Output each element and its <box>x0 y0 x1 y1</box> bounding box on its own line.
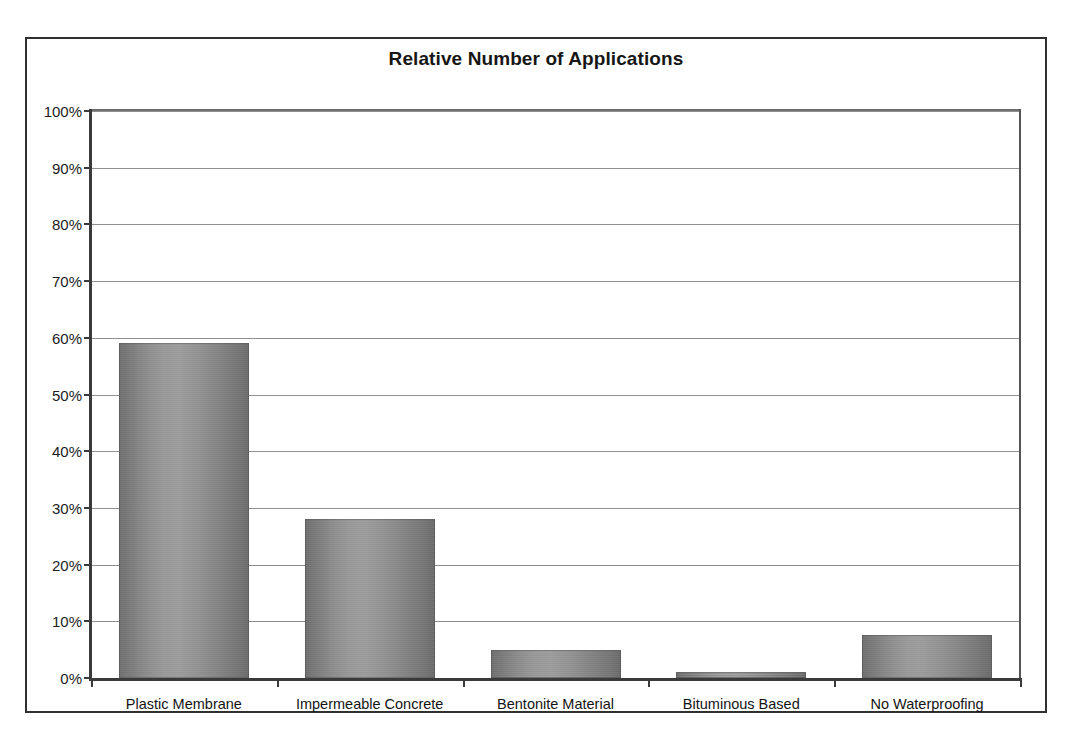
y-axis-tick-label: 90% <box>52 159 82 176</box>
y-axis-tick-label: 70% <box>52 273 82 290</box>
y-axis-line <box>89 109 92 680</box>
y-axis-tick-label: 10% <box>52 613 82 630</box>
plot-right-border <box>1019 109 1021 680</box>
plot-area: 100%90%80%70%60%50%40%30%20%10%0% Plasti… <box>91 111 1020 678</box>
y-axis-tick-label: 50% <box>52 386 82 403</box>
gridline <box>91 111 1020 112</box>
chart-title: Relative Number of Applications <box>27 48 1045 70</box>
x-axis-line <box>89 678 1022 681</box>
y-axis-tick-label: 80% <box>52 216 82 233</box>
bar <box>119 343 249 678</box>
y-axis-tick-label: 0% <box>60 670 82 687</box>
chart-frame: Relative Number of Applications 100%90%8… <box>25 37 1047 713</box>
bar <box>305 519 435 678</box>
bar <box>491 650 621 678</box>
plot-top-border <box>91 109 1020 111</box>
y-axis-tick-label: 60% <box>52 329 82 346</box>
bar <box>862 635 992 678</box>
x-axis-category-label: Plastic Membrane <box>126 696 242 712</box>
gridline <box>91 168 1020 169</box>
gridline <box>91 338 1020 339</box>
y-axis-tick-label: 20% <box>52 556 82 573</box>
x-axis-category-label: No Waterproofing <box>871 696 984 712</box>
y-axis-tick-label: 30% <box>52 499 82 516</box>
gridline <box>91 224 1020 225</box>
x-axis-category-label: Impermeable Concrete <box>296 696 444 712</box>
y-axis-tick-label: 100% <box>44 103 82 120</box>
x-axis-category-label: Bentonite Material <box>497 696 614 712</box>
y-axis-tick-label: 40% <box>52 443 82 460</box>
gridline <box>91 281 1020 282</box>
x-axis-category-label: Bituminous Based <box>683 696 800 712</box>
